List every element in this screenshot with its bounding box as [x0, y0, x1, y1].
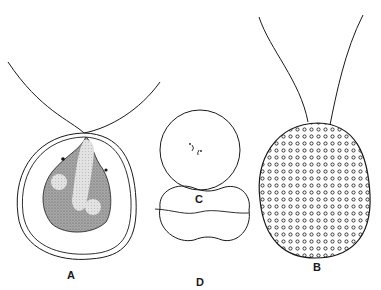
flagellum-b-right: [330, 15, 363, 125]
cell-d: [160, 186, 250, 241]
panel-b: [259, 15, 370, 258]
median-line-d: [155, 209, 249, 213]
flagellum-b-left: [259, 17, 308, 122]
label-d: D: [196, 276, 204, 288]
cell-c: [160, 110, 240, 190]
flagellum-a-right: [84, 82, 160, 133]
stigma-a-1: [61, 157, 65, 161]
inclusion-a-2: [85, 199, 101, 215]
figure-illustration: [0, 0, 381, 290]
inclusion-a-1: [51, 174, 67, 190]
panel-a: [8, 62, 160, 259]
stigma-a-2: [104, 168, 107, 171]
panel-c: [160, 110, 240, 190]
flagellum-a-left: [8, 62, 84, 133]
cell-b: [259, 123, 370, 258]
label-c: C: [195, 193, 203, 205]
label-a: A: [67, 269, 75, 281]
label-b: B: [313, 261, 321, 273]
